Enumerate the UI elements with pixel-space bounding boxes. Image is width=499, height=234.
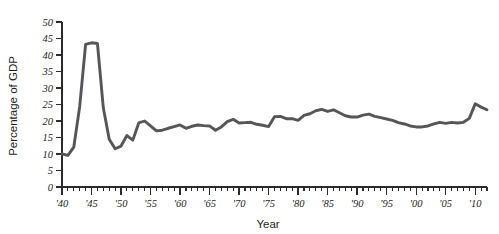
x-tick-label: '55 — [144, 198, 157, 209]
spending-line — [62, 43, 487, 156]
y-tick-label: 20 — [43, 116, 54, 127]
x-tick-label: '60 — [174, 198, 187, 209]
x-tick-label: '70 — [233, 198, 246, 209]
y-tick-label: 0 — [48, 182, 54, 193]
x-tick-label: '85 — [321, 198, 334, 209]
y-axis — [56, 22, 62, 187]
x-tick-label: '00 — [410, 198, 423, 209]
y-tick-labels: 05101520253035404550 — [42, 17, 54, 193]
y-tick-label: 45 — [43, 33, 54, 44]
y-tick-label: 30 — [42, 83, 54, 94]
y-tick-label: 15 — [43, 132, 54, 143]
x-tick-label: '40 — [56, 198, 69, 209]
y-tick-label: 35 — [42, 66, 54, 77]
x-axis-title: Year — [256, 218, 279, 230]
data-series — [62, 43, 487, 156]
y-axis-title: Percentage of GDP — [7, 56, 19, 156]
y-tick-label: 10 — [43, 149, 54, 160]
x-tick-label: '10 — [469, 198, 482, 209]
x-tick-label: '05 — [439, 198, 452, 209]
x-tick-label: '65 — [203, 198, 216, 209]
x-tick-label: '50 — [115, 198, 128, 209]
x-axis — [62, 187, 487, 195]
chart-container: 05101520253035404550 '40'45'50'55'60'65'… — [0, 0, 499, 234]
x-tick-label: '45 — [85, 198, 98, 209]
y-tick-label: 40 — [43, 50, 54, 61]
x-tick-label: '80 — [292, 198, 305, 209]
line-chart: 05101520253035404550 '40'45'50'55'60'65'… — [0, 0, 499, 234]
x-tick-labels: '40'45'50'55'60'65'70'75'80'85'90'95'00'… — [56, 198, 483, 209]
y-tick-label: 5 — [48, 165, 53, 176]
y-tick-label: 50 — [43, 17, 54, 28]
y-tick-label: 25 — [43, 99, 54, 110]
x-tick-label: '75 — [262, 198, 275, 209]
x-tick-label: '90 — [351, 198, 364, 209]
x-tick-label: '95 — [380, 198, 393, 209]
